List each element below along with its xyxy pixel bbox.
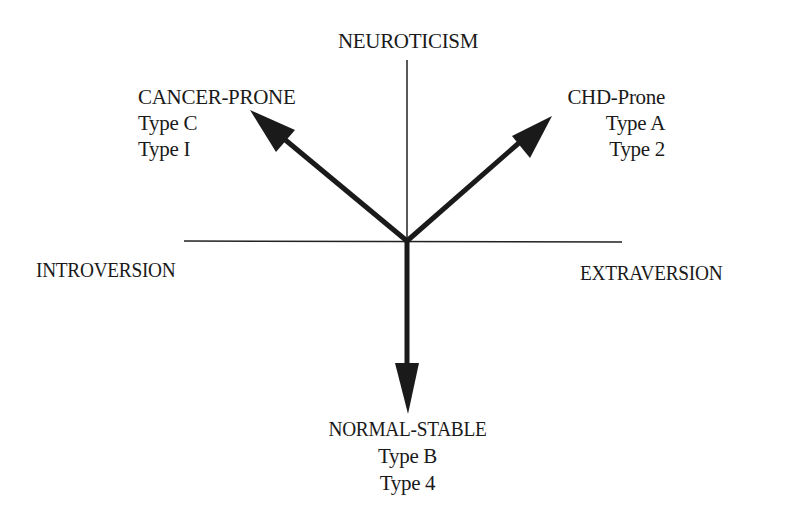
normal-stable-type-4: Type 4 [280, 470, 535, 497]
chd-prone-type-2: Type 2 [520, 136, 665, 162]
cancer-prone-title: CANCER-PRONE [138, 84, 295, 110]
normal-stable-type-b: Type B [280, 443, 535, 470]
arrow-normal-stable-icon [395, 241, 419, 414]
axis-label-neuroticism: NEUROTICISM [318, 28, 498, 54]
label-cancer-prone: CANCER-PRONE Type C Type I [138, 84, 295, 162]
personality-diagram: NEUROTICISM INTROVERSION EXTRAVERSION CA… [0, 0, 803, 522]
label-chd-prone: CHD-Prone Type A Type 2 [520, 84, 665, 162]
cancer-prone-type-i: Type I [138, 136, 295, 162]
normal-stable-title: NORMAL-STABLE [290, 416, 525, 443]
chd-prone-title: CHD-Prone [520, 84, 665, 110]
chd-prone-type-a: Type A [520, 110, 665, 136]
axis-label-introversion: INTROVERSION [36, 257, 175, 283]
horizontal-axis [184, 241, 622, 242]
label-normal-stable: NORMAL-STABLE Type B Type 4 [280, 416, 535, 497]
axis-label-extraversion: EXTRAVERSION [580, 260, 722, 286]
cancer-prone-type-c: Type C [138, 110, 295, 136]
